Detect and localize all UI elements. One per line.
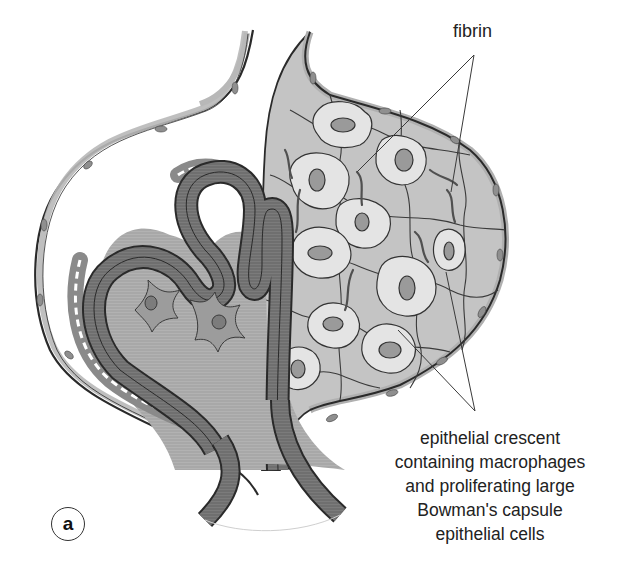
crescent-label-line-5: epithelial cells: [360, 522, 620, 546]
panel-letter-badge: a: [51, 507, 85, 541]
crescent-label-line-2: containing macrophages: [360, 450, 620, 474]
fibrin-label: fibrin: [453, 21, 492, 42]
epithelial-crescent-label: epithelial crescent containing macrophag…: [360, 426, 620, 546]
glomerulus-diagram: fibrin epithelial crescent containing ma…: [0, 0, 620, 571]
crescent-label-line-3: and proliferating large: [360, 474, 620, 498]
crescent-label-line-1: epithelial crescent: [360, 426, 620, 450]
crescent-label-line-4: Bowman's capsule: [360, 498, 620, 522]
